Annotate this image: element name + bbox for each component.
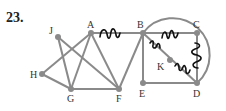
- label-G: G: [67, 93, 74, 104]
- node-C: [194, 30, 200, 36]
- node-F: [116, 86, 122, 92]
- label-A: A: [87, 19, 95, 30]
- label-F: F: [116, 93, 122, 104]
- node-G: [68, 86, 74, 92]
- node-J: [55, 34, 61, 40]
- edge-J-F: [58, 37, 119, 89]
- label-C: C: [193, 19, 200, 30]
- edge-H-G: [42, 74, 71, 89]
- node-B: [140, 30, 146, 36]
- label-J: J: [49, 25, 53, 36]
- label-E: E: [139, 88, 145, 99]
- edge-J-G: [58, 37, 71, 89]
- graph-diagram: J A B C H K G F E D: [0, 0, 226, 111]
- node-D: [194, 80, 200, 86]
- node-H: [39, 71, 45, 77]
- label-H: H: [30, 69, 37, 80]
- node-K: [167, 57, 173, 63]
- label-B: B: [137, 19, 144, 30]
- edge-A-F: [91, 33, 119, 89]
- label-D: D: [193, 88, 200, 99]
- node-E: [140, 80, 146, 86]
- node-A: [88, 30, 94, 36]
- label-K: K: [157, 61, 165, 72]
- squiggle-B-C: [162, 31, 178, 39]
- edge-B-F: [119, 33, 143, 89]
